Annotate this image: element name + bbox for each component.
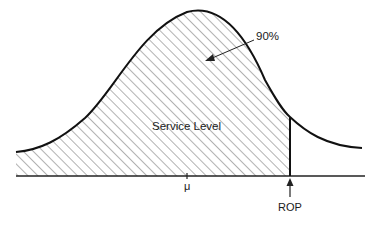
rop-arrow-icon	[287, 178, 294, 197]
percentage-label: 90%	[256, 30, 279, 42]
shaded-area	[0, 0, 375, 226]
service-level-diagram: Service Level 90% μ ROP	[0, 0, 375, 226]
reorder-point-label: ROP	[278, 201, 302, 213]
service-level-label: Service Level	[152, 120, 221, 132]
diagram-canvas	[0, 0, 375, 226]
mean-label: μ	[184, 180, 190, 192]
